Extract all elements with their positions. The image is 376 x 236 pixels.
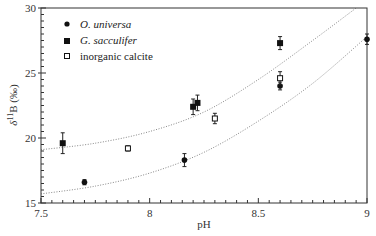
legend: O. universa G. sacculifer inorganic calc… (64, 18, 153, 62)
y-axis-label-superscript: 11 (6, 113, 15, 121)
x-tick-label: 8.5 (251, 207, 265, 219)
legend-marker-circle-icon (64, 21, 69, 26)
legend-marker-open-square-icon (65, 54, 70, 59)
legend-marker-filled-square-icon (64, 38, 70, 44)
data-point (125, 146, 130, 151)
y-tick-label: 15 (25, 197, 37, 209)
data-point (82, 179, 88, 185)
y-tick-label: 20 (25, 132, 37, 144)
scatter-chart: 7.588.5915202530 pH δ11B (‰) O. universa… (0, 0, 376, 236)
square-marker-icon (60, 140, 66, 146)
y-tick-label: 25 (25, 67, 37, 79)
legend-label-o-universa: O. universa (80, 18, 132, 30)
data-point (60, 133, 66, 154)
data-point (212, 113, 217, 123)
circle-marker-icon (82, 179, 88, 185)
legend-label-g-sacculifer: G. sacculifer (80, 34, 138, 46)
legend-label-inorganic-calcite: inorganic calcite (80, 50, 153, 62)
y-axis-label: δ11B (‰) (6, 84, 20, 126)
open-square-marker-icon (278, 76, 283, 81)
data-point (364, 34, 370, 44)
x-tick-label: 7.5 (34, 207, 48, 219)
open-square-marker-icon (125, 146, 130, 151)
data-point (278, 72, 283, 85)
y-tick-label: 30 (25, 2, 37, 14)
circle-marker-icon (182, 157, 188, 163)
x-axis-label: pH (197, 218, 211, 230)
x-tick-label: 9 (364, 207, 370, 219)
y-axis-label-rest: B (‰) (7, 84, 20, 113)
data-point (277, 37, 283, 50)
circle-marker-icon (364, 36, 370, 42)
square-marker-icon (194, 100, 200, 106)
data-point (182, 154, 188, 167)
square-marker-icon (277, 40, 283, 46)
x-tick-label: 8 (147, 207, 153, 219)
open-square-marker-icon (212, 116, 217, 121)
